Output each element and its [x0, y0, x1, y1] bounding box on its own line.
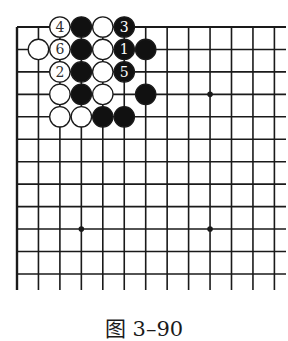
- white-stone-4: 4: [50, 17, 70, 37]
- go-board: 436125: [0, 0, 288, 300]
- star-point: [79, 226, 85, 232]
- black-stone: [136, 84, 156, 104]
- move-number: 5: [120, 64, 129, 80]
- move-number: 6: [55, 41, 64, 57]
- star-point: [207, 92, 213, 98]
- black-stone: [71, 84, 91, 104]
- white-stone: [93, 17, 113, 37]
- black-stone: [71, 17, 91, 37]
- figure-caption: 图 3–90: [0, 312, 288, 341]
- white-stone: [93, 39, 113, 59]
- black-stone: [93, 107, 113, 127]
- black-stone: [71, 62, 91, 82]
- white-stone: [93, 84, 113, 104]
- white-stone-2: 2: [50, 62, 70, 82]
- move-number: 4: [55, 19, 64, 35]
- black-stone-1: 1: [114, 39, 134, 59]
- white-stone: [50, 107, 70, 127]
- move-number: 1: [120, 41, 129, 57]
- black-stone-3: 3: [114, 17, 134, 37]
- black-stone-5: 5: [114, 62, 134, 82]
- move-number: 2: [55, 64, 64, 80]
- white-stone: [50, 84, 70, 104]
- black-stone: [71, 39, 91, 59]
- move-number: 3: [120, 19, 129, 35]
- white-stone: [93, 62, 113, 82]
- white-stone-6: 6: [50, 39, 70, 59]
- white-stone: [71, 107, 91, 127]
- black-stone: [136, 39, 156, 59]
- white-stone: [28, 39, 48, 59]
- star-point: [207, 226, 213, 232]
- black-stone: [114, 107, 134, 127]
